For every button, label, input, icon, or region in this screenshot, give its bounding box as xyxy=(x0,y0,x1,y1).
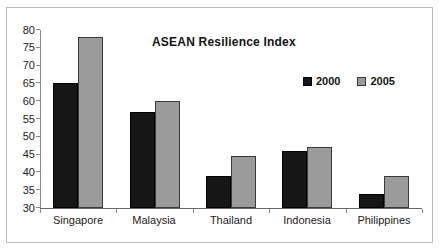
bar xyxy=(384,176,409,208)
x-tick-mark xyxy=(422,209,423,213)
y-tick-35: 35 xyxy=(40,189,41,190)
y-tick-mark xyxy=(36,47,40,48)
y-tick-30: 30 xyxy=(40,207,41,208)
y-tick-mark xyxy=(36,171,40,172)
y-tick-70: 70 xyxy=(40,65,41,66)
y-tick-label: 70 xyxy=(23,60,35,71)
chart-figure: ASEAN Resilience Index 2000 2005 3035404… xyxy=(6,7,433,243)
x-axis-line xyxy=(40,208,422,209)
y-tick-mark xyxy=(36,189,40,190)
x-tick-mark xyxy=(116,209,117,213)
y-tick-60: 60 xyxy=(40,100,41,101)
x-tick-mark xyxy=(346,209,347,213)
y-tick-mark xyxy=(36,154,40,155)
y-tick-mark xyxy=(36,65,40,66)
y-tick-label: 80 xyxy=(23,24,35,35)
y-tick-mark xyxy=(36,29,40,30)
bar xyxy=(78,37,103,208)
y-tick-mark xyxy=(36,118,40,119)
bar xyxy=(130,112,155,208)
y-tick-mark xyxy=(36,82,40,83)
y-tick-mark xyxy=(36,136,40,137)
bar xyxy=(307,147,332,208)
y-tick-80: 80 xyxy=(40,29,41,30)
y-axis-line xyxy=(40,30,41,209)
x-tick-mark xyxy=(193,209,194,213)
y-tick-mark xyxy=(36,100,40,101)
y-tick-75: 75 xyxy=(40,47,41,48)
bar xyxy=(231,156,256,208)
bar-group xyxy=(130,30,180,208)
bar xyxy=(206,176,231,208)
y-tick-label: 65 xyxy=(23,77,35,88)
y-tick-label: 50 xyxy=(23,131,35,142)
y-tick-label: 60 xyxy=(23,95,35,106)
x-label-singapore: Singapore xyxy=(40,215,116,226)
x-axis-labels: SingaporeMalaysiaThailandIndonesiaPhilip… xyxy=(40,215,422,235)
x-label-indonesia: Indonesia xyxy=(269,215,345,226)
y-tick-45: 45 xyxy=(40,154,41,155)
y-tick-label: 30 xyxy=(23,202,35,213)
x-label-malaysia: Malaysia xyxy=(116,215,192,226)
y-tick-40: 40 xyxy=(40,171,41,172)
x-tick-mark xyxy=(269,209,270,213)
y-tick-label: 45 xyxy=(23,149,35,160)
x-label-philippines: Philippines xyxy=(346,215,422,226)
bar xyxy=(282,151,307,208)
y-tick-label: 75 xyxy=(23,42,35,53)
bar xyxy=(155,101,180,208)
y-tick-50: 50 xyxy=(40,136,41,137)
y-tick-label: 40 xyxy=(23,166,35,177)
bar-group xyxy=(53,30,103,208)
bar-group xyxy=(206,30,256,208)
y-tick-65: 65 xyxy=(40,82,41,83)
y-tick-label: 55 xyxy=(23,113,35,124)
x-label-thailand: Thailand xyxy=(193,215,269,226)
bar xyxy=(53,83,78,208)
bar xyxy=(359,194,384,208)
y-tick-55: 55 xyxy=(40,118,41,119)
y-tick-label: 35 xyxy=(23,184,35,195)
bar-group xyxy=(359,30,409,208)
bar-group xyxy=(282,30,332,208)
plot-area: 3035404550556065707580 xyxy=(40,30,422,209)
y-tick-mark xyxy=(36,207,40,208)
x-tick-mark xyxy=(40,209,41,213)
